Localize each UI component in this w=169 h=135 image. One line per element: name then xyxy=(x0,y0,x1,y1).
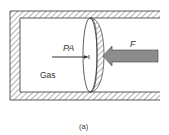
piston-cylinder-diagram: PA F Gas (a) xyxy=(0,0,169,135)
piston-face xyxy=(83,18,97,92)
figure-caption: (a) xyxy=(79,122,89,131)
external-force-label: F xyxy=(130,39,136,49)
external-force-arrow xyxy=(103,46,158,66)
gas-label: Gas xyxy=(40,70,56,80)
pressure-force-label: PA xyxy=(63,43,74,53)
piston xyxy=(83,18,104,92)
